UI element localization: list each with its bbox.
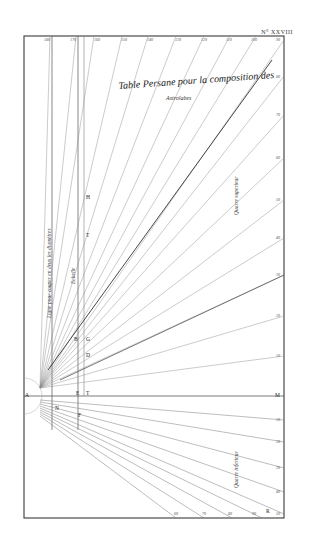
point-F: F — [78, 412, 81, 418]
point-D: D — [86, 352, 90, 358]
point-E: E — [76, 390, 79, 396]
plate-frame — [24, 36, 284, 518]
plate-number: N° XXVIII — [261, 29, 293, 35]
scale-top-tick: 110 — [226, 37, 232, 42]
point-G: G — [86, 336, 90, 342]
scale-right-tick: 30 — [276, 465, 280, 470]
point-T: T — [86, 232, 89, 238]
scale-right-tick: 10 — [276, 353, 280, 358]
scale-top-tick: 180 — [44, 37, 50, 42]
scale-bottom-tick: 80 — [228, 511, 232, 516]
scale-top-tick: 170 — [70, 37, 76, 42]
label-scale: Echelle — [70, 268, 76, 285]
scale-top-tick: 140 — [147, 37, 153, 42]
scale-right-tick: 20 — [276, 439, 280, 444]
scale-right-tick: 70 — [276, 112, 280, 117]
point-H: H — [86, 194, 90, 200]
scale-right-tick: 40 — [276, 489, 280, 494]
scale-top-tick: 120 — [201, 37, 207, 42]
point-T2: T — [86, 390, 89, 396]
scale-top-tick: 130 — [175, 37, 181, 42]
emphasized-ray — [48, 60, 272, 370]
scale-right-tick: 40 — [276, 235, 280, 240]
point-B: B — [74, 336, 78, 342]
scale-right-tick: 80 — [276, 74, 280, 79]
scale-top-tick: 90 — [276, 37, 280, 42]
scale-top-tick: 150 — [121, 37, 127, 42]
scale-right-tick: 30 — [276, 272, 280, 277]
scale-bottom-tick: 60 — [174, 511, 178, 516]
scale-right-tick: 10 — [276, 417, 280, 422]
scale-bottom-tick: 70 — [202, 511, 206, 516]
point-R: R — [266, 508, 270, 514]
point-A: A — [25, 392, 29, 398]
label-lower-quadrant: Quarre inferieur — [233, 451, 239, 488]
scale-right-tick: 60 — [276, 155, 280, 160]
label-upper-quadrant: Quarre superieur — [233, 177, 239, 215]
emphasized-ray-2 — [60, 275, 284, 380]
scale-right-tick: 20 — [276, 313, 280, 318]
plate-subtitle: Astrolabes — [166, 95, 191, 101]
point-M: M — [275, 392, 280, 398]
scale-right-tick: 50 — [276, 197, 280, 202]
scale-top-tick: 160 — [94, 37, 100, 42]
scale-top-tick: 100 — [251, 37, 257, 42]
point-N: N — [55, 405, 59, 411]
label-diameter-line: Ligne pour couper en deux les diamètres — [46, 228, 52, 318]
scale-bottom-tick: 90 — [252, 511, 256, 516]
rays-lower — [40, 400, 284, 518]
scale-right-tick: 50 — [276, 511, 280, 516]
